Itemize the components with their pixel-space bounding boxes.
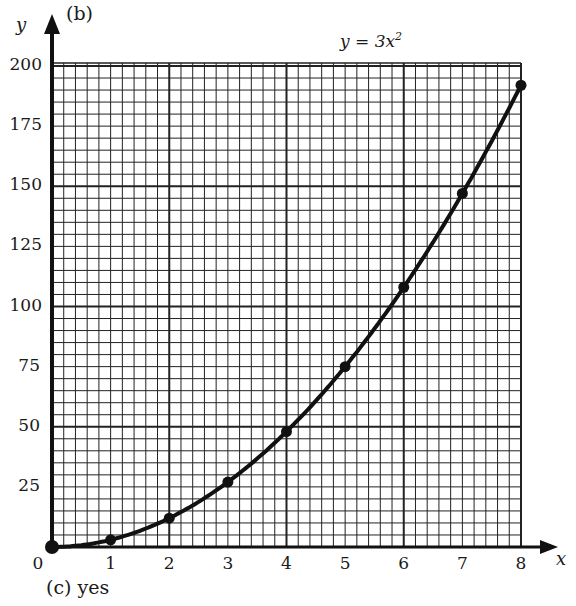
x-tick-label: 7: [452, 553, 472, 573]
y-tick-label: 175: [2, 114, 42, 134]
x-tick-label: 8: [511, 553, 531, 573]
x-tick-label: 4: [277, 553, 297, 573]
data-point-marker: [281, 426, 292, 437]
data-point-marker: [340, 361, 351, 372]
equation-exponent: 2: [395, 30, 402, 43]
y-axis-label: y: [16, 14, 26, 35]
y-tick-label: 200: [2, 54, 42, 74]
answer-text: (c) yes: [46, 576, 109, 598]
data-point-marker: [105, 534, 116, 545]
equation-label: y = 3x2: [340, 30, 402, 51]
data-point-marker: [516, 80, 527, 91]
x-tick-label: 1: [101, 553, 121, 573]
x-tick-label: 0: [28, 553, 48, 573]
y-tick-label: 50: [0, 415, 40, 435]
data-point-marker: [457, 188, 468, 199]
y-tick-label: 150: [2, 174, 42, 194]
y-axis-arrow-icon: [44, 14, 60, 34]
x-tick-label: 2: [159, 553, 179, 573]
x-axis-label: x: [556, 548, 566, 569]
y-tick-label: 25: [0, 475, 40, 495]
equation-text: y = 3x: [340, 31, 395, 51]
y-tick-label: 100: [2, 295, 42, 315]
x-tick-label: 5: [335, 553, 355, 573]
x-tick-label: 3: [218, 553, 238, 573]
graph-paper-plot: [0, 0, 576, 606]
data-point-marker: [222, 477, 233, 488]
y-tick-label: 75: [0, 355, 40, 375]
data-point-marker: [164, 513, 175, 524]
y-tick-label: 125: [2, 234, 42, 254]
data-point-marker: [45, 540, 59, 554]
part-label: (b): [66, 2, 93, 24]
data-point-marker: [398, 282, 409, 293]
x-tick-label: 6: [394, 553, 414, 573]
